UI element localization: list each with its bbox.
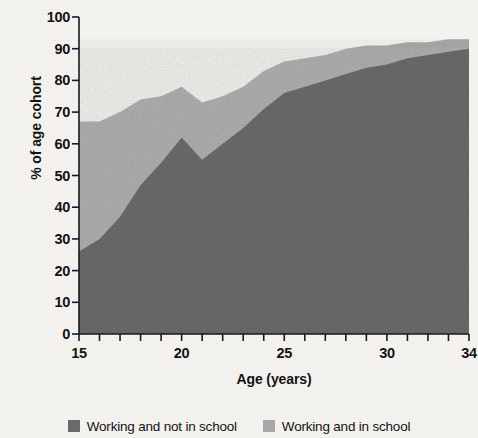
y-tick-label: 10	[30, 294, 70, 310]
legend-label: Working and not in school	[87, 419, 237, 434]
legend-swatch-icon	[263, 420, 275, 432]
legend-swatch-icon	[68, 420, 80, 432]
x-tick-label: 34	[447, 345, 478, 361]
chart-legend: Working and not in school Working and in…	[0, 414, 478, 438]
legend-item-working-and-in-school: Working and in school	[263, 419, 410, 434]
y-tick-label: 20	[30, 263, 70, 279]
chart-figure: 0102030405060708090100 1520253034 % of a…	[0, 0, 478, 438]
x-tick-label: 20	[160, 345, 204, 361]
x-tick-label: 25	[262, 345, 306, 361]
legend-item-working-and-not-in-school: Working and not in school	[68, 419, 237, 434]
x-tick-label: 15	[57, 345, 101, 361]
x-axis-ticks	[79, 334, 469, 341]
y-tick-label: 0	[30, 326, 70, 342]
x-axis-title: Age (years)	[79, 371, 469, 387]
y-axis-ticks	[72, 17, 79, 334]
x-axis-tick-labels: 1520253034	[0, 345, 478, 367]
legend-label: Working and in school	[282, 419, 410, 434]
y-tick-label: 100	[30, 9, 70, 25]
y-tick-label: 30	[30, 231, 70, 247]
y-axis-title: % of age cohort	[28, 48, 44, 208]
x-tick-label: 30	[365, 345, 409, 361]
